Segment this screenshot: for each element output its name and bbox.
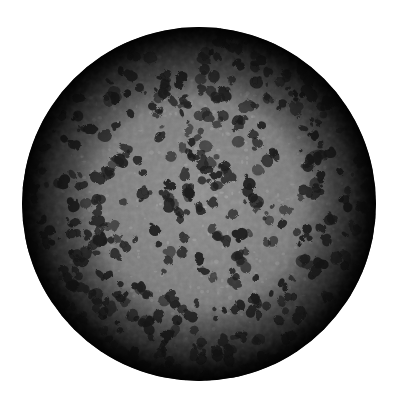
sphere [19,26,379,383]
sphere-scene [0,0,396,403]
limb-darkening [22,27,376,381]
